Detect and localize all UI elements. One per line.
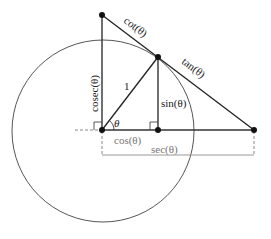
cot-label: cot(θ) xyxy=(121,14,150,40)
theta-label: θ xyxy=(114,117,120,129)
sin-label: sin(θ) xyxy=(161,97,187,110)
sec-end-point xyxy=(251,127,257,133)
tangent-line xyxy=(102,15,254,130)
cosec-top-point xyxy=(99,12,105,18)
sec-label: sec(θ) xyxy=(151,143,178,156)
trig-unit-circle-diagram: cot(θ) tan(θ) cosec(θ) 1 sin(θ) θ cos(θ)… xyxy=(0,0,271,239)
sin-foot-point xyxy=(155,127,161,133)
cosec-label: cosec(θ) xyxy=(88,75,101,112)
cos-label: cos(θ) xyxy=(114,134,142,147)
circle-point xyxy=(155,54,161,60)
radius-label: 1 xyxy=(124,80,130,92)
radius-line xyxy=(102,57,158,130)
origin-point xyxy=(99,127,105,133)
